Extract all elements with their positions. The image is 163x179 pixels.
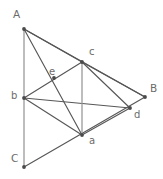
vertex-dot-b bbox=[22, 96, 26, 100]
vertex-dot-B bbox=[143, 95, 147, 99]
vertex-label-b: b bbox=[11, 91, 17, 101]
vertex-label-B: B bbox=[150, 83, 157, 93]
edge-a-d bbox=[82, 108, 130, 135]
geometry-figure: ABCabcde bbox=[0, 0, 163, 179]
edge-b-a bbox=[24, 98, 82, 135]
vertex-dot-C bbox=[22, 165, 26, 169]
vertex-label-e: e bbox=[49, 67, 55, 77]
vertex-dot-A bbox=[22, 27, 26, 31]
edge-b-d bbox=[24, 98, 130, 108]
vertex-label-d: d bbox=[134, 110, 140, 120]
vertex-dot-d bbox=[128, 106, 132, 110]
vertex-dot-c bbox=[80, 60, 84, 64]
vertex-label-c: c bbox=[89, 47, 95, 57]
vertex-dots-group bbox=[22, 27, 147, 169]
vertex-label-a: a bbox=[89, 136, 95, 146]
vertex-label-A: A bbox=[13, 9, 20, 19]
vertex-dot-a bbox=[80, 133, 84, 137]
vertex-label-C: C bbox=[11, 153, 18, 163]
geometry-canvas bbox=[0, 0, 163, 179]
edges-group bbox=[24, 29, 145, 167]
